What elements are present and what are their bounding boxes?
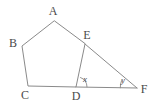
vertex-label-b: B [9,37,17,49]
pentagon-outline [22,21,85,87]
vertex-label-a: A [49,5,58,17]
vertex-label-f: F [141,83,148,95]
vertex-label-d: D [72,90,81,102]
geometry-figure: A B C D E F x y [0,0,154,107]
segment-df [76,87,137,88]
vertex-label-c: C [21,89,29,101]
angle-label-y: y [121,76,125,85]
angle-label-x: x [83,75,87,84]
vertex-label-e: E [83,29,90,41]
segment-ef [85,44,137,88]
diagram-strokes [22,21,137,88]
